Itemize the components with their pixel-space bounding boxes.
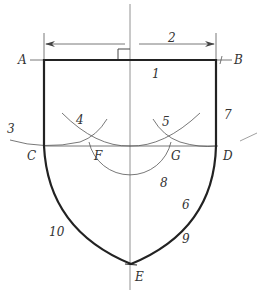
arc-3 bbox=[10, 119, 107, 146]
step-9: 9 bbox=[182, 232, 190, 246]
step-3: 3 bbox=[7, 122, 15, 136]
label-d: D bbox=[222, 149, 233, 163]
arc-fragment bbox=[240, 133, 257, 141]
label-g: G bbox=[171, 149, 181, 163]
label-a: A bbox=[17, 53, 27, 67]
step-1: 1 bbox=[152, 67, 160, 81]
step-4: 4 bbox=[75, 113, 84, 127]
step-8: 8 bbox=[160, 176, 168, 190]
step-5: 5 bbox=[162, 115, 170, 129]
label-b: B bbox=[233, 53, 243, 67]
step-6: 6 bbox=[182, 198, 190, 212]
cusp-mark bbox=[125, 264, 137, 265]
right-angle-marker bbox=[118, 49, 130, 60]
label-e: E bbox=[134, 270, 144, 284]
shield-construction-diagram: A B C D E F G 1 2 3 4 5 6 7 8 9 10 bbox=[0, 0, 262, 290]
label-c: C bbox=[27, 149, 36, 163]
label-f: F bbox=[93, 149, 103, 163]
step-7: 7 bbox=[224, 108, 232, 122]
step-2: 2 bbox=[167, 31, 176, 45]
step-10: 10 bbox=[49, 225, 65, 239]
